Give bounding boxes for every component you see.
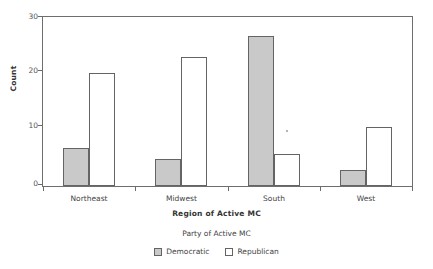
bar-west-democratic[interactable] [340, 170, 366, 186]
bar-midwest-republican[interactable] [181, 57, 207, 186]
bar-midwest-democratic[interactable] [155, 159, 181, 186]
x-tick-mark-2 [228, 187, 229, 191]
y-tick-label-20: 20 [28, 67, 38, 75]
bars-container [43, 17, 412, 186]
legend-item-democratic: Democratic [154, 247, 209, 256]
bar-group-south [248, 17, 300, 186]
bar-south-republican[interactable] [274, 154, 300, 186]
bar-south-democratic[interactable] [248, 36, 274, 186]
bar-northeast-democratic[interactable] [63, 148, 89, 186]
x-category-label-midwest: Midwest [135, 194, 228, 203]
plot-area [42, 16, 413, 187]
bar-group-northeast [63, 17, 115, 186]
x-category-label-west: West [320, 194, 412, 203]
legend-label-republican: Republican [237, 247, 278, 256]
x-tick-mark-4 [412, 187, 413, 191]
legend-swatch-democratic-icon [154, 248, 162, 256]
y-tick-label-10: 10 [28, 122, 38, 130]
x-axis-title: Region of Active MC [0, 209, 433, 218]
x-tick-mark-0 [43, 187, 44, 191]
legend-label-democratic: Democratic [166, 247, 209, 256]
x-category-label-south: South [228, 194, 320, 203]
bar-group-west [340, 17, 392, 186]
legend-item-republican: Republican [225, 247, 278, 256]
bar-northeast-republican[interactable] [89, 73, 115, 186]
y-tick-label-30: 30 [28, 13, 38, 21]
legend-title: Party of Active MC [0, 229, 433, 238]
x-tick-mark-3 [320, 187, 321, 191]
legend: Democratic Republican [0, 247, 433, 256]
x-tick-mark-1 [135, 187, 136, 191]
x-category-label-northeast: Northeast [43, 194, 135, 203]
bar-west-republican[interactable] [366, 127, 392, 186]
bar-chart-figure: Count 30 20 10 0 Northeast Midwest South… [0, 0, 433, 269]
scan-artifact-speck [286, 130, 288, 132]
legend-swatch-republican-icon [225, 248, 233, 256]
bar-group-midwest [155, 17, 207, 186]
